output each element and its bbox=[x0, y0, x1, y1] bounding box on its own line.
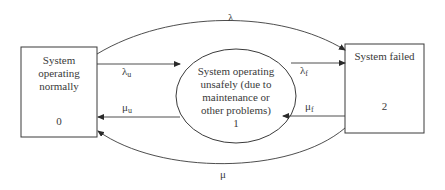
edge-label-lambda: λ bbox=[228, 11, 233, 23]
node-0-line-3: normally bbox=[21, 80, 97, 93]
edge-label-mu-u: μu bbox=[122, 101, 132, 115]
node-1-label: System operating unsafely (due to mainte… bbox=[176, 65, 296, 130]
edge-label-mu: μ bbox=[220, 168, 226, 180]
edge-label-lambda-u: λu bbox=[122, 65, 131, 79]
edge-mu-arc bbox=[98, 128, 345, 164]
edge-label-lambda-f: λf bbox=[300, 64, 308, 78]
edge-label-mu-base: μ bbox=[220, 168, 226, 180]
node-1-line-3: maintenance or bbox=[176, 91, 296, 104]
node-0-line-2: operating bbox=[21, 67, 97, 80]
node-0-number: 0 bbox=[21, 115, 97, 127]
edge-label-mu-f-sub: f bbox=[311, 105, 314, 114]
node-2-number: 2 bbox=[345, 100, 424, 112]
edge-lambda-arc bbox=[97, 20, 345, 54]
node-0-line-1: System bbox=[21, 54, 97, 67]
edge-label-lambda-u-sub: u bbox=[127, 70, 131, 79]
edge-label-lambda-f-sub: f bbox=[305, 69, 308, 78]
node-0-label: System operating normally bbox=[21, 54, 97, 93]
edge-label-lambda-base: λ bbox=[228, 11, 233, 23]
node-2-line-1: System failed bbox=[345, 50, 424, 63]
node-1-line-4: other problems) bbox=[176, 104, 296, 117]
node-2-label: System failed bbox=[345, 50, 424, 63]
node-1-line-1: System operating bbox=[176, 65, 296, 78]
edge-label-mu-u-sub: u bbox=[128, 106, 132, 115]
node-1-number: 1 bbox=[176, 117, 296, 130]
edge-label-mu-f: μf bbox=[305, 100, 314, 114]
node-1-line-2: unsafely (due to bbox=[176, 78, 296, 91]
